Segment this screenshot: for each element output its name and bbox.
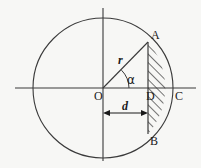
radius-line <box>103 42 148 88</box>
label-point-b: B <box>150 135 158 147</box>
label-origin: O <box>94 90 103 102</box>
label-radius: r <box>118 54 123 66</box>
geometry-figure: A B C D O r d α <box>0 0 201 168</box>
figure-canvas <box>0 0 201 168</box>
label-distance: d <box>122 100 128 112</box>
label-angle-alpha: α <box>127 74 135 86</box>
label-point-c: C <box>175 90 183 102</box>
label-point-a: A <box>151 29 160 41</box>
label-point-d: D <box>146 90 155 102</box>
